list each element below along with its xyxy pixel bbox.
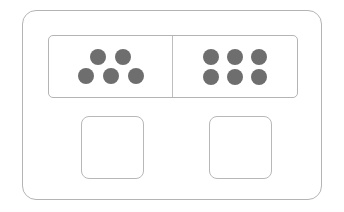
right-dot-row-1: [203, 49, 267, 65]
dot-strip: [48, 35, 298, 98]
right-answer-box[interactable]: [209, 116, 272, 179]
dot: [128, 68, 144, 84]
left-dot-row-1: [90, 49, 131, 65]
left-answer-box[interactable]: [81, 116, 144, 179]
dot: [115, 49, 131, 65]
dot: [203, 69, 219, 85]
dot: [78, 68, 94, 84]
dot: [227, 49, 243, 65]
right-dot-group[interactable]: [173, 36, 297, 97]
dot: [203, 49, 219, 65]
right-dot-row-2: [203, 69, 267, 85]
dot: [103, 68, 119, 84]
answer-row: [23, 116, 323, 186]
left-dot-group[interactable]: [49, 36, 173, 97]
left-dot-row-2: [78, 68, 144, 84]
canvas: [0, 0, 344, 212]
dot-comparison-card: [22, 10, 322, 200]
dot: [251, 49, 267, 65]
dot: [90, 49, 106, 65]
dot: [227, 69, 243, 85]
dot: [251, 69, 267, 85]
